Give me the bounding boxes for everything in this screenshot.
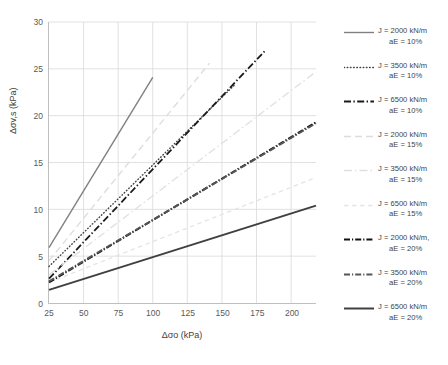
legend-label-line1: J = 6500 kN/m bbox=[378, 199, 427, 208]
legend-line-swatch bbox=[344, 200, 374, 211]
legend-label: J = 6500 kN/maE = 15% bbox=[378, 199, 427, 220]
x-tick-label: 125 bbox=[181, 303, 195, 318]
legend-line-swatch bbox=[344, 131, 374, 142]
series-line bbox=[49, 206, 316, 290]
y-tick-label: 25 bbox=[34, 64, 49, 74]
legend-label: J = 6500 kN/maE = 10% bbox=[378, 95, 427, 116]
y-axis-title: Δσv,s (kPa) bbox=[8, 116, 18, 134]
x-tick-label: 25 bbox=[44, 303, 53, 318]
x-axis-title: Δσo (kPa) bbox=[48, 330, 316, 340]
legend-label: J = 6500 kN/maE = 20% bbox=[378, 302, 427, 323]
legend-label: J = 3500 kN/maE = 15% bbox=[378, 164, 427, 185]
legend-item[interactable]: J = 2000 kN/maE = 15% bbox=[344, 130, 442, 158]
legend-label: J = 2000 kN/maE = 10% bbox=[378, 26, 427, 47]
series-line bbox=[49, 77, 153, 247]
chart-figure: Δσv,s (kPa) 051015202530 255075100125150… bbox=[0, 0, 448, 365]
legend-label-line2: aE = 10% bbox=[378, 71, 427, 82]
legend-line-swatch bbox=[344, 165, 374, 176]
series-lines bbox=[49, 22, 316, 303]
chart-legend: J = 2000 kN/maE = 10%J = 3500 kN/maE = 1… bbox=[340, 14, 444, 352]
legend-label: J = 3500 kN/maE = 20% bbox=[378, 268, 427, 289]
legend-label-line2: aE = 15% bbox=[378, 209, 427, 220]
legend-line-swatch bbox=[344, 62, 374, 73]
legend-item[interactable]: J = 6500 kN/maE = 20% bbox=[344, 302, 442, 330]
legend-label: J = 3500 kN/maE = 10% bbox=[378, 61, 427, 82]
y-tick-label: 10 bbox=[34, 205, 49, 215]
series-line bbox=[49, 123, 316, 281]
legend-label: J = 2000 kN/maE = 15% bbox=[378, 130, 427, 151]
legend-item[interactable]: J = 6500 kN/maE = 10% bbox=[344, 95, 442, 123]
x-tick-label: 200 bbox=[285, 303, 299, 318]
legend-label-line1: J = 3500 kN/m bbox=[378, 268, 427, 277]
legend-label-line1: J = 6500 kN/m bbox=[378, 302, 427, 311]
legend-label-line2: aE = 10% bbox=[378, 37, 427, 48]
series-line bbox=[49, 51, 265, 279]
x-tick-label: 175 bbox=[250, 303, 264, 318]
legend-label-line2: aE = 20% bbox=[378, 313, 427, 324]
legend-label-line2: aE = 15% bbox=[378, 175, 427, 186]
legend-item[interactable]: J = 2000 kN/maE = 10% bbox=[344, 26, 442, 54]
y-tick-label: 20 bbox=[34, 111, 49, 121]
series-line bbox=[49, 63, 209, 261]
legend-line-swatch bbox=[344, 234, 374, 245]
legend-item[interactable]: J = 2000 kN/m,aE = 20% bbox=[344, 233, 442, 261]
legend-label-line1: J = 6500 kN/m bbox=[378, 95, 427, 104]
legend-item[interactable]: J = 3500 kN/maE = 15% bbox=[344, 164, 442, 192]
legend-label-line2: aE = 15% bbox=[378, 140, 427, 151]
legend-label-line1: J = 2000 kN/m, bbox=[378, 233, 429, 242]
legend-label-line2: aE = 10% bbox=[378, 106, 427, 117]
y-tick-label: 15 bbox=[34, 158, 49, 168]
legend-line-swatch bbox=[344, 96, 374, 107]
y-tick-label: 5 bbox=[38, 252, 49, 262]
plot-area: 051015202530 255075100125150175200 bbox=[48, 22, 316, 304]
legend-label-line1: J = 2000 kN/m bbox=[378, 26, 427, 35]
legend-label-line1: J = 3500 kN/m bbox=[378, 61, 427, 70]
legend-item[interactable]: J = 6500 kN/maE = 15% bbox=[344, 199, 442, 227]
legend-label-line2: aE = 20% bbox=[378, 278, 427, 289]
legend-label-line1: J = 2000 kN/m bbox=[378, 130, 427, 139]
legend-label-line2: aE = 20% bbox=[378, 244, 429, 255]
x-tick-label: 100 bbox=[146, 303, 160, 318]
legend-line-swatch bbox=[344, 269, 374, 280]
legend-line-swatch bbox=[344, 27, 374, 38]
legend-label: J = 2000 kN/m,aE = 20% bbox=[378, 233, 429, 254]
legend-line-swatch bbox=[344, 303, 374, 314]
x-tick-label: 50 bbox=[79, 303, 88, 318]
legend-label-line1: J = 3500 kN/m bbox=[378, 164, 427, 173]
series-line bbox=[49, 72, 316, 275]
series-line bbox=[49, 177, 316, 282]
legend-item[interactable]: J = 3500 kN/maE = 10% bbox=[344, 61, 442, 89]
x-tick-label: 150 bbox=[215, 303, 229, 318]
legend-item[interactable]: J = 3500 kN/maE = 20% bbox=[344, 268, 442, 296]
x-tick-label: 75 bbox=[114, 303, 123, 318]
y-tick-label: 30 bbox=[34, 17, 49, 27]
